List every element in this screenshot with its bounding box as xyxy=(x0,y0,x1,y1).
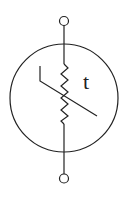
terminal-bottom-icon xyxy=(60,174,69,183)
thermistor-label: t xyxy=(83,69,89,94)
thermistor-symbol: t xyxy=(0,0,127,199)
terminal-top-icon xyxy=(60,17,69,26)
